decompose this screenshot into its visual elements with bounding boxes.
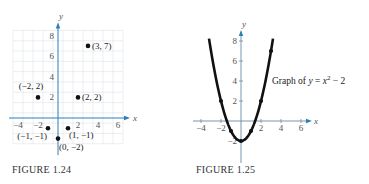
y-axis-arrow-icon [239,30,243,36]
y-tick-label: 4 [233,76,238,86]
x-tick-label: 6 [299,123,304,133]
data-point [259,99,263,103]
annotation-suffix: − 2 [330,76,345,86]
data-point [249,129,253,133]
data-point [239,139,243,143]
annotation-eq: = [313,76,323,86]
y-axis-label: y [241,19,246,29]
x-tick-label: −2 [216,123,226,133]
x-tick-label: 2 [259,123,264,133]
figure-1-24-caption: FIGURE 1.24 [12,164,71,175]
y-tick-label: 2 [233,96,238,106]
data-point [269,49,273,53]
x-tick-label: −4 [196,123,206,133]
x-axis-label: x [313,116,318,126]
graph-annotation: Graph of y = x2 − 2 [272,74,346,86]
annotation-prefix: Graph of [272,76,308,86]
figure-1-25-parabola: xy−4−2246−22468Graph of y = x2 − 2 [0,0,369,184]
data-point [219,99,223,103]
y-tick-label: 8 [233,36,238,46]
figure-1-25-caption: FIGURE 1.25 [196,164,255,175]
data-point [229,129,233,133]
x-axis-arrow-icon [306,119,312,123]
x-tick-label: 4 [279,123,284,133]
y-tick-label: 6 [233,56,238,66]
